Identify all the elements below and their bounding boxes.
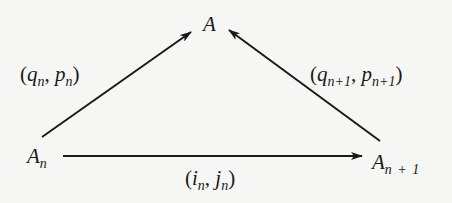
node-a-n-base: A xyxy=(27,144,40,168)
label-q-n-p-n: (qn, pn) xyxy=(20,64,80,89)
node-a-top-base: A xyxy=(203,12,216,36)
node-a-top: A xyxy=(203,14,216,35)
paren-close: ) xyxy=(228,166,235,190)
separator: , xyxy=(351,62,362,86)
paren-open: ( xyxy=(310,62,317,86)
paren-open: ( xyxy=(185,166,192,190)
label-p: p xyxy=(55,62,66,86)
node-a-n1-base: A xyxy=(372,150,385,174)
node-a-n1-sub: n + 1 xyxy=(385,162,420,177)
paren-open: ( xyxy=(20,62,27,86)
paren-close: ) xyxy=(73,62,80,86)
node-a-n: An xyxy=(27,146,47,171)
label-p: p xyxy=(361,62,372,86)
separator: , xyxy=(205,166,216,190)
separator: , xyxy=(45,62,56,86)
node-a-n-sub: n xyxy=(40,156,47,171)
label-q-sub: n+1 xyxy=(328,74,351,89)
node-a-n-plus-1: An + 1 xyxy=(372,152,420,177)
paren-close: ) xyxy=(395,62,402,86)
label-i-sub: n xyxy=(198,178,205,193)
label-q-sub: n xyxy=(38,74,45,89)
label-p-sub: n xyxy=(66,74,73,89)
label-i-n-j-n: (in, jn) xyxy=(185,168,235,193)
label-p-sub: n+1 xyxy=(372,74,395,89)
label-q: q xyxy=(317,62,328,86)
label-q-n1-p-n1: (qn+1, pn+1) xyxy=(310,64,402,89)
label-q: q xyxy=(27,62,38,86)
